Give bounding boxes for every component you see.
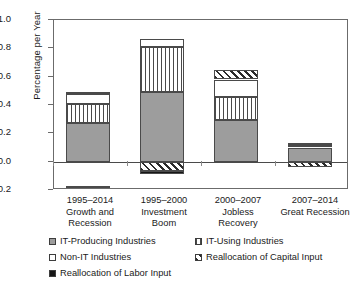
bar-segment-non-it[interactable] [214,80,258,98]
x-category-label-1: 1995–2014 Growth and Recession [53,195,127,230]
bar-segment-capital[interactable] [288,162,332,168]
bar-segment-it-producing[interactable] [288,148,332,162]
bar-segment-non-it[interactable] [140,39,184,47]
bar-segment-labor[interactable] [66,186,110,188]
legend-swatch-labor-icon [49,270,56,277]
bar-segment-it-using[interactable] [288,145,332,148]
legend-swatch-it-using-icon [195,238,202,245]
bar-segment-it-producing[interactable] [66,123,110,162]
legend-item-labor[interactable]: Reallocation of Labor Input [49,268,171,278]
y-tick-label-4: 0.4 [0,99,11,109]
legend-swatch-it-producing-icon [49,238,56,245]
x-tick-mark [127,161,128,166]
legend-swatch-capital-icon [195,254,202,261]
y-tick-label-5: 0.2 [0,128,11,138]
bar-segment-capital[interactable] [66,92,110,94]
legend-label-it-producing: IT-Producing Industries [60,236,156,246]
y-tick-label-6: 0.0 [0,156,11,166]
x-category-label-2: 1995–2000 Investment Boom [127,195,201,230]
bar-group-1995-2000[interactable] [140,20,184,188]
bar-segment-non-it[interactable] [66,94,110,103]
x-tick-mark [275,161,276,166]
legend-swatch-non-it-icon [49,254,56,261]
y-tick-label-3: 0.6 [0,71,11,81]
x-category-label-3: 2000–2007 Jobless Recovery [201,195,275,230]
x-tick-mark [53,161,54,166]
y-axis-title: Percentage per Year [31,0,42,136]
y-tick-mark [48,189,53,190]
bar-segment-it-using[interactable] [214,97,258,120]
bar-segment-capital[interactable] [214,70,258,80]
legend-label-capital: Reallocation of Capital Input [206,252,322,262]
x-tick-mark [201,161,202,166]
legend-label-non-it: Non-IT Industries [60,252,131,262]
legend-label-labor: Reallocation of Labor Input [60,268,171,278]
bar-group-2000-2007[interactable] [214,20,258,188]
bar-group-2007-2014[interactable] [288,20,332,188]
bar-segment-it-producing[interactable] [140,92,184,162]
bar-group-1995-2014[interactable] [66,20,110,188]
legend-item-non-it[interactable]: Non-IT Industries [49,252,131,262]
y-tick-label-2: 0.8 [0,43,11,53]
bar-segment-non-it[interactable] [288,143,332,145]
legend-label-it-using: IT-Using Industries [206,236,284,246]
x-category-label-4: 2007–2014 Great Recession [271,195,359,218]
stacked-bar-chart: Percentage per Year 1.0 0.8 0.6 0.4 0.2 … [0,0,362,298]
bar-segment-capital[interactable] [140,162,184,171]
legend-item-capital[interactable]: Reallocation of Capital Input [195,252,322,262]
bar-segment-it-using[interactable] [66,104,110,123]
y-tick-label-7: −0.2 [0,184,11,194]
y-tick-label-1: 1.0 [0,14,11,24]
legend-item-it-using[interactable]: IT-Using Industries [195,236,284,246]
bar-segment-it-using[interactable] [140,47,184,92]
bar-segment-it-producing[interactable] [214,120,258,162]
legend-item-it-producing[interactable]: IT-Producing Industries [49,236,156,246]
bar-segment-labor[interactable] [140,171,184,174]
